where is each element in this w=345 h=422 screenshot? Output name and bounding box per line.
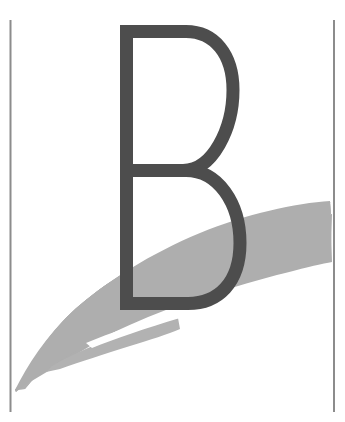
logo-canvas: Letter B logo with swoosh Stylized capit… <box>0 0 345 422</box>
right-vertical-rule <box>333 20 335 412</box>
left-vertical-rule <box>10 20 12 412</box>
logo-artwork <box>0 0 345 422</box>
